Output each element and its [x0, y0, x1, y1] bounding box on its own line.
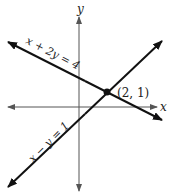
- line-label-x-minus-y-eq-1: x − y = 1: [26, 119, 72, 165]
- line-x-minus-y-eq-1: [8, 41, 162, 187]
- y-axis-label: y: [76, 2, 84, 16]
- x-axis-label: x: [160, 100, 167, 114]
- line-x-plus-2y-eq-4: [8, 42, 162, 120]
- coordinate-plane-diagram: x y x + 2y = 4 x − y = 1 (2, 1): [0, 0, 171, 193]
- intersection-point: [104, 89, 111, 96]
- intersection-label: (2, 1): [117, 86, 149, 100]
